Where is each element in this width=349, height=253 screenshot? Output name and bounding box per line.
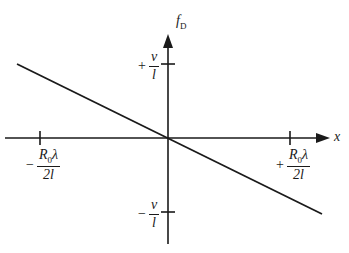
x-neg-tick-label: − R0λ2l — [26, 148, 60, 183]
numerator: R0λ — [287, 148, 310, 167]
y-neg-tick-label: − vl — [138, 198, 159, 230]
denominator: l — [152, 67, 156, 83]
x-pos-tick-label: + R0λ2l — [276, 148, 310, 183]
sign: − — [26, 157, 34, 173]
num-tail: λ — [302, 147, 308, 162]
denominator: 2l — [43, 167, 54, 183]
num-tail: λ — [52, 147, 58, 162]
numerator: R0λ — [37, 148, 60, 167]
x-axis-label: x — [334, 130, 340, 144]
numerator: v — [149, 50, 159, 67]
y-axis-label: fD — [176, 14, 186, 31]
sign: + — [276, 157, 284, 173]
y-axis-label-sub: D — [180, 21, 187, 31]
denominator: l — [152, 215, 156, 231]
sign: − — [138, 206, 146, 222]
sign: + — [138, 58, 146, 74]
y-axis-arrow-icon — [163, 34, 173, 48]
denominator: 2l — [293, 167, 304, 183]
x-axis-arrow-icon — [316, 133, 330, 143]
diagram-canvas — [0, 0, 349, 253]
y-pos-tick-label: + vl — [138, 50, 159, 82]
numerator: v — [149, 198, 159, 215]
fd-line — [17, 64, 322, 214]
